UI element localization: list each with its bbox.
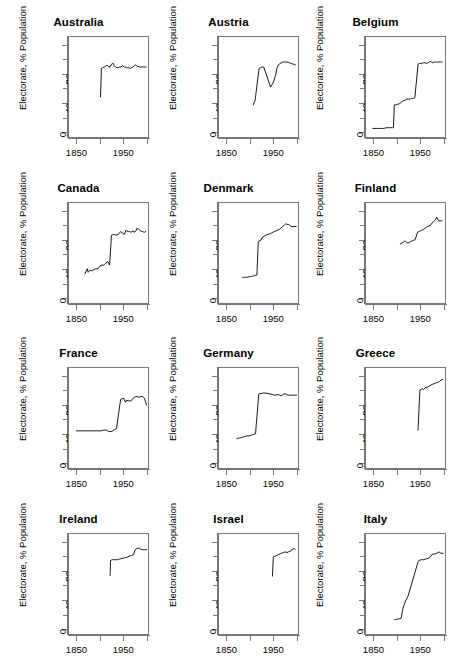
x-tick-label: 1950 [263,478,284,489]
series-line [253,62,295,105]
x-tick [397,469,398,475]
x-tick-label: 1850 [363,147,384,158]
y-axis-label: Electorate, % Population [314,335,326,443]
chart-panel-australia: AustraliaElectorate, % Population0408012… [3,14,154,179]
x-tick-label: 1950 [263,644,284,655]
series-line [272,548,295,576]
x-tick-label: 1850 [66,478,87,489]
x-tick [420,635,421,641]
x-tick [226,304,227,310]
x-axis-line [365,469,447,470]
plot-area [68,533,149,635]
x-tick-label: 1950 [263,147,284,158]
chart-panel-greece: GreeceElectorate, % Population0408012018… [300,345,451,510]
x-axis [213,469,305,476]
y-tick-label: 0 [355,629,365,634]
x-axis [213,138,305,145]
x-tick-label: 1950 [113,644,134,655]
x-tick-label: 1850 [66,644,87,655]
x-tick [147,469,148,475]
x-tick [147,635,148,641]
x-tick-label: 1950 [113,478,134,489]
y-tick-label: 0 [58,298,68,303]
y-axis-label: Electorate, % Population [314,501,326,609]
x-axis-line [218,469,300,470]
x-tick-label: 1850 [66,147,87,158]
x-tick-label: 1950 [113,147,134,158]
series-line [101,63,147,97]
x-axis [360,304,452,311]
plot-area [365,202,446,304]
x-tick [123,469,124,475]
x-tick [226,635,227,641]
series-line [400,217,442,243]
chart-panel-denmark: DenmarkElectorate, % Population040801201… [153,180,304,345]
x-tick-label: 1850 [363,313,384,324]
small-multiples-figure: AustraliaElectorate, % Population0408012… [0,0,453,669]
x-tick [100,138,101,144]
y-tick-label: 0 [355,132,365,137]
x-tick [273,635,274,641]
x-tick [250,304,251,310]
x-tick [123,635,124,641]
y-tick-label: 0 [208,463,218,468]
x-axis [63,304,155,311]
x-axis-line [365,138,447,139]
x-axis [213,635,305,642]
x-tick [444,635,445,641]
x-tick [100,635,101,641]
y-tick-label: 0 [58,463,68,468]
chart-panel-belgium: BelgiumElectorate, % Population040801201… [300,14,451,179]
x-tick [273,138,274,144]
x-tick [100,469,101,475]
x-axis [360,138,452,145]
x-tick [123,138,124,144]
x-tick-labels: 18501950 [340,644,453,658]
x-tick [373,635,374,641]
chart-panel-finland: FinlandElectorate, % Population040801201… [300,180,451,345]
chart-panel-austria: AustriaElectorate, % Population040801201… [153,14,304,179]
x-tick [397,138,398,144]
chart-panel-ireland: IrelandElectorate, % Population040801201… [3,511,154,669]
x-tick-label: 1950 [410,644,431,655]
x-tick [250,469,251,475]
x-axis [63,469,155,476]
x-axis-line [218,635,300,636]
x-axis-line [68,304,150,305]
x-tick [273,469,274,475]
series-line [243,224,296,278]
x-axis-line [365,635,447,636]
y-tick-label: 0 [58,629,68,634]
plot-area [365,533,446,635]
x-tick-label: 1950 [410,147,431,158]
x-tick [76,304,77,310]
y-axis-label: Electorate, % Population [17,335,29,443]
x-axis-line [365,304,447,305]
plot-area [218,202,299,304]
x-tick-label: 1850 [363,478,384,489]
series-line [418,379,443,430]
x-tick [420,138,421,144]
x-axis-line [218,304,300,305]
y-axis-label: Electorate, % Population [17,170,29,278]
y-tick-label: 0 [58,132,68,137]
x-tick [420,469,421,475]
x-axis-line [68,635,150,636]
x-tick-label: 1850 [216,313,237,324]
x-tick [373,138,374,144]
x-tick-labels: 18501950 [340,313,453,327]
x-tick [444,304,445,310]
x-tick [444,469,445,475]
plot-area [218,533,299,635]
chart-panel-italy: ItalyElectorate, % Population04080120185… [300,511,451,669]
x-axis-line [218,138,300,139]
x-tick-label: 1850 [363,644,384,655]
x-tick [444,138,445,144]
x-tick [273,304,274,310]
x-axis [360,469,452,476]
series-line [237,393,297,439]
x-tick-labels: 18501950 [340,478,453,492]
y-tick-label: 0 [208,629,218,634]
series-line [110,548,147,575]
x-tick [297,138,298,144]
